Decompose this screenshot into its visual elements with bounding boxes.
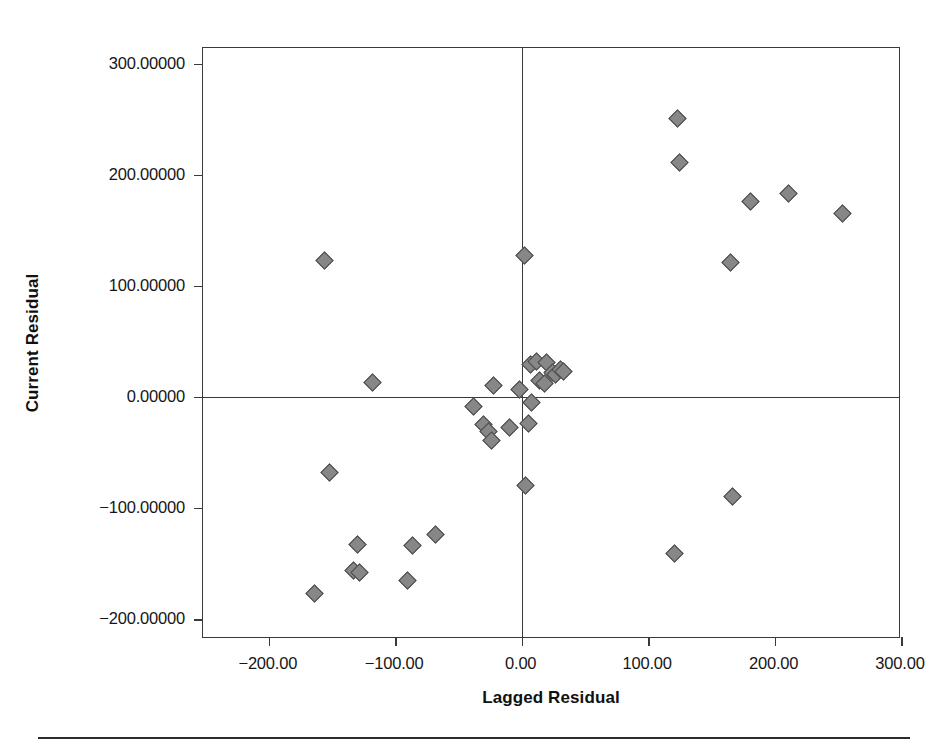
zero-line-vertical xyxy=(522,48,524,637)
data-point xyxy=(724,488,742,506)
data-point xyxy=(668,109,686,127)
plot-area xyxy=(202,47,900,638)
x-axis-tick xyxy=(901,637,903,646)
page-divider-rule xyxy=(38,737,910,739)
x-axis-tick-label: 0.00 xyxy=(505,654,536,673)
y-axis-tick xyxy=(194,397,203,399)
data-point xyxy=(741,192,759,210)
x-axis-tick xyxy=(775,637,777,646)
data-point xyxy=(464,398,482,416)
data-point xyxy=(670,153,688,171)
data-point xyxy=(426,525,444,543)
data-point xyxy=(515,246,533,264)
data-point xyxy=(665,544,683,562)
zero-line-horizontal xyxy=(203,397,899,399)
y-axis-tick xyxy=(194,619,203,621)
data-point xyxy=(305,584,323,602)
y-axis-tick-label: −100.00000 xyxy=(99,497,185,516)
data-point xyxy=(779,184,797,202)
y-axis-tick-label: −200.00000 xyxy=(99,609,185,628)
data-point xyxy=(404,536,422,554)
data-point xyxy=(510,380,528,398)
data-point xyxy=(320,463,338,481)
x-axis-tick xyxy=(395,637,397,646)
data-point xyxy=(485,376,503,394)
data-point xyxy=(348,535,366,553)
x-axis-title: Lagged Residual xyxy=(202,688,900,708)
data-point xyxy=(516,476,534,494)
x-axis-tick-label: −200.00 xyxy=(238,654,297,673)
y-axis-tick-label: 300.00000 xyxy=(109,53,185,72)
x-axis-tick-label: 300.00 xyxy=(875,654,924,673)
data-point xyxy=(399,571,417,589)
data-point xyxy=(315,251,333,269)
y-axis-tick-label: 0.00000 xyxy=(127,386,185,405)
y-axis-tick xyxy=(194,508,203,510)
x-axis-tick xyxy=(648,637,650,646)
data-point xyxy=(834,204,852,222)
data-point xyxy=(721,253,739,271)
y-axis-tick-label: 200.00000 xyxy=(109,164,185,183)
x-axis-tick-label: 200.00 xyxy=(749,654,798,673)
x-axis-tick-label: −100.00 xyxy=(365,654,424,673)
data-point xyxy=(500,419,518,437)
scatter-plot-figure: Current Residual 300.00000200.00000100.0… xyxy=(0,0,945,752)
y-axis-tick-labels: 300.00000200.00000100.000000.00000−100.0… xyxy=(0,47,185,638)
data-point xyxy=(363,373,381,391)
x-axis-tick-label: 100.00 xyxy=(622,654,671,673)
y-axis-tick-label: 100.00000 xyxy=(109,275,185,294)
x-axis-tick xyxy=(522,637,524,646)
y-axis-tick xyxy=(194,64,203,66)
x-axis-tick-labels: −200.00−100.000.00100.00200.00300.00 xyxy=(202,654,900,680)
y-axis-tick xyxy=(194,175,203,177)
x-axis-tick xyxy=(269,637,271,646)
y-axis-tick xyxy=(194,286,203,288)
